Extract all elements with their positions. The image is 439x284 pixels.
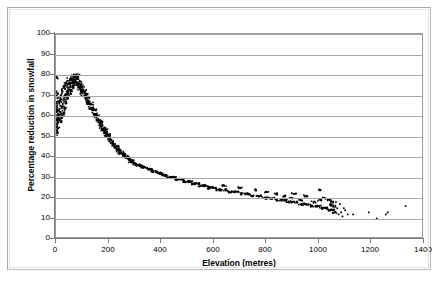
gridline-y-20 <box>56 198 422 199</box>
x-tick-mark-400 <box>160 238 161 243</box>
gridline-y-50 <box>56 137 422 138</box>
x-tick-mark-600 <box>213 238 214 243</box>
x-tick-mark-800 <box>265 238 266 243</box>
y-axis-title: Percentage reduction in snowfall <box>26 50 36 200</box>
gridline-y-90 <box>56 55 422 56</box>
y-tick-label-100: 100 <box>18 29 50 37</box>
gridline-y-80 <box>56 75 422 76</box>
y-tick-label-text: 10 <box>24 214 50 222</box>
gridline-y-70 <box>56 96 422 97</box>
gridline-y-40 <box>56 157 422 158</box>
x-tick-label-600: 600 <box>193 245 233 254</box>
x-tick-label-200: 200 <box>88 245 128 254</box>
y-tick-mark-10 <box>50 218 55 219</box>
y-tick-label-0: 0 <box>18 234 50 242</box>
x-tick-label-1200: 1200 <box>350 245 390 254</box>
y-tick-mark-70 <box>50 95 55 96</box>
y-tick-mark-80 <box>50 74 55 75</box>
y-tick-mark-100 <box>50 33 55 34</box>
x-tick-label-400: 400 <box>140 245 180 254</box>
x-tick-mark-1000 <box>318 238 319 243</box>
y-tick-mark-60 <box>50 115 55 116</box>
y-tick-mark-20 <box>50 197 55 198</box>
x-tick-mark-1400 <box>423 238 424 243</box>
plot-area <box>55 33 423 238</box>
chart-outer-frame: 0102030405060708090100 02004006008001000… <box>7 7 431 270</box>
x-tick-label-1400: 1400 <box>403 245 439 254</box>
x-tick-mark-1200 <box>370 238 371 243</box>
gridline-y-30 <box>56 178 422 179</box>
gridline-y-100 <box>56 34 422 35</box>
y-tick-mark-90 <box>50 54 55 55</box>
scatter-points <box>56 34 423 238</box>
y-tick-mark-30 <box>50 177 55 178</box>
y-tick-mark-40 <box>50 156 55 157</box>
x-tick-label-1000: 1000 <box>298 245 338 254</box>
y-tick-label-text: 0 <box>24 234 50 242</box>
gridline-y-60 <box>56 116 422 117</box>
x-tick-label-800: 800 <box>245 245 285 254</box>
x-tick-label-0: 0 <box>35 245 75 254</box>
chart-figure: 0102030405060708090100 02004006008001000… <box>0 0 439 284</box>
y-tick-mark-50 <box>50 136 55 137</box>
y-tick-label-10: 10 <box>18 214 50 222</box>
x-axis-line <box>54 238 424 239</box>
x-tick-mark-200 <box>108 238 109 243</box>
gridline-y-10 <box>56 219 422 220</box>
y-tick-label-text: 100 <box>24 29 50 37</box>
x-axis-title: Elevation (metres) <box>55 258 423 268</box>
x-tick-mark-0 <box>55 238 56 243</box>
